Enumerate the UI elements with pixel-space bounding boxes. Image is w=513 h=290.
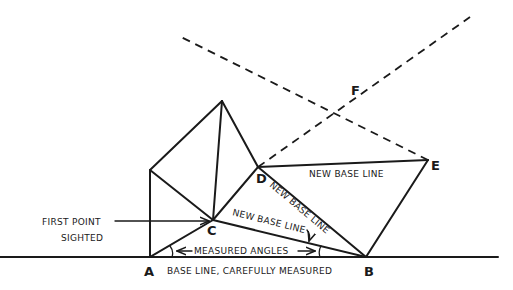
- sighted-label: SIGHTED: [61, 233, 103, 243]
- triangulation-diagram: A B C D E F FIRST POINT SIGHTED MEASURED…: [0, 0, 513, 290]
- base-line-label: BASE LINE, CAREFULLY MEASURED: [167, 266, 332, 276]
- point-f-label: F: [351, 83, 360, 98]
- edge-apex-c: [213, 101, 222, 220]
- point-b-label: B: [364, 264, 374, 279]
- point-c-label: C: [207, 223, 217, 238]
- point-a-label: A: [144, 264, 154, 279]
- point-e-label: E: [431, 158, 440, 173]
- angle-arc-a: [170, 246, 173, 257]
- edge-left-vertex-apex: [150, 101, 222, 170]
- edge-left-vertex-c: [150, 170, 213, 220]
- point-d-label: D: [256, 171, 267, 186]
- new-base-line-cb-arrow: [307, 230, 310, 241]
- new-base-line-cb-label: NEW BASE LINE: [232, 207, 307, 235]
- measured-angles-label: MEASURED ANGLES: [194, 246, 288, 256]
- edge-d-e: [258, 160, 428, 167]
- new-base-line-de-label: NEW BASE LINE: [309, 169, 384, 179]
- first-point-label: FIRST POINT: [42, 217, 101, 227]
- angle-arc-b: [319, 246, 321, 257]
- edge-apex-d: [222, 101, 258, 167]
